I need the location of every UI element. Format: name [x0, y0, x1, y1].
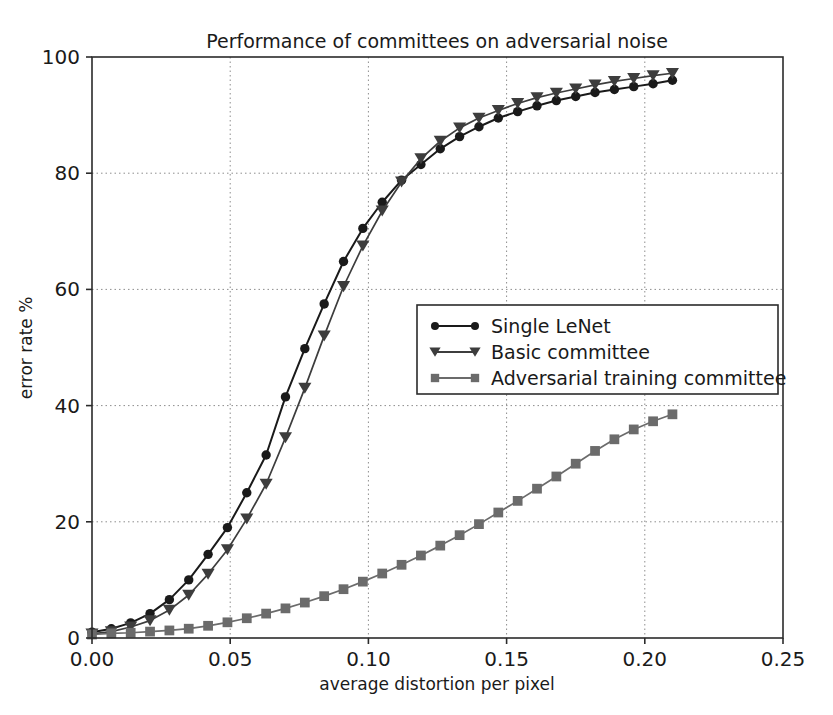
legend-label: Single LeNet	[491, 315, 611, 337]
data-point-marker	[319, 299, 328, 308]
data-point-marker	[261, 450, 270, 459]
data-point-marker	[493, 508, 503, 518]
data-point-marker	[435, 541, 445, 551]
data-point-marker	[377, 569, 387, 579]
data-point-marker	[358, 224, 367, 233]
data-point-marker	[281, 603, 291, 613]
data-point-marker	[551, 472, 561, 482]
data-point-marker	[203, 550, 212, 559]
y-tick-label: 80	[55, 161, 80, 185]
data-point-marker	[184, 624, 194, 634]
x-tick-label: 0.00	[70, 647, 115, 671]
data-point-marker	[358, 577, 368, 587]
data-point-marker	[571, 459, 581, 469]
data-point-marker	[203, 621, 213, 631]
data-point-marker	[471, 374, 479, 382]
data-point-marker	[106, 628, 116, 638]
data-point-marker	[610, 434, 620, 444]
data-point-marker	[513, 496, 523, 506]
y-tick-label: 20	[55, 510, 80, 534]
data-point-marker	[532, 484, 542, 494]
x-axis-label: average distortion per pixel	[319, 674, 554, 694]
y-tick-label: 0	[67, 626, 80, 650]
data-point-marker	[668, 409, 678, 419]
x-tick-label: 0.10	[346, 647, 391, 671]
data-point-marker	[242, 488, 251, 497]
data-point-marker	[397, 560, 407, 570]
data-point-marker	[590, 446, 600, 456]
data-point-marker	[431, 322, 439, 330]
data-point-marker	[474, 519, 484, 529]
data-point-marker	[261, 609, 271, 619]
data-point-marker	[242, 613, 252, 623]
data-point-marker	[145, 627, 155, 637]
data-point-marker	[339, 584, 349, 594]
data-point-marker	[184, 575, 193, 584]
data-point-marker	[339, 257, 348, 266]
x-tick-label: 0.25	[761, 647, 806, 671]
data-point-marker	[300, 344, 309, 353]
y-axis-label: error rate %	[16, 297, 36, 400]
data-point-marker	[223, 523, 232, 532]
data-point-marker	[319, 591, 329, 601]
data-point-marker	[416, 551, 426, 561]
data-point-marker	[455, 530, 465, 540]
y-tick-label: 40	[55, 394, 80, 418]
data-point-marker	[281, 392, 290, 401]
y-tick-label: 100	[42, 45, 80, 69]
data-point-marker	[126, 628, 136, 638]
data-point-marker	[300, 598, 310, 608]
x-tick-label: 0.20	[623, 647, 668, 671]
x-tick-label: 0.15	[484, 647, 529, 671]
data-point-marker	[223, 617, 233, 627]
data-point-marker	[165, 595, 174, 604]
legend-label: Basic committee	[491, 341, 650, 363]
legend-label: Adversarial training committee	[491, 367, 786, 389]
y-tick-label: 60	[55, 277, 80, 301]
chart-page: 0.000.050.100.150.200.25020406080100 Per…	[0, 0, 833, 715]
performance-line-chart: 0.000.050.100.150.200.25020406080100 Per…	[0, 0, 833, 715]
x-tick-label: 0.05	[208, 647, 253, 671]
data-point-marker	[648, 416, 658, 426]
data-point-marker	[629, 425, 639, 435]
data-point-marker	[431, 374, 439, 382]
chart-legend[interactable]: Single LeNetBasic committeeAdversarial t…	[417, 305, 786, 394]
chart-title: Performance of committees on adversarial…	[206, 30, 668, 52]
data-point-marker	[471, 322, 479, 330]
data-point-marker	[165, 626, 175, 636]
